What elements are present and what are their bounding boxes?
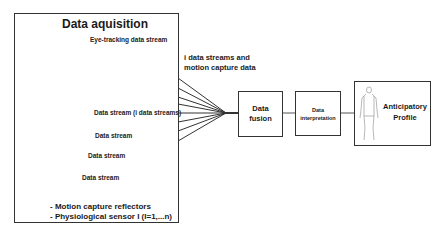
label-eye-tracking: Eye-tracking data stream	[90, 36, 167, 43]
interpretation-line1: Data	[312, 106, 324, 114]
stream-fan-lines	[178, 78, 226, 141]
profile-label: Anticipatory Profile	[380, 101, 430, 123]
streams-label: i data streams and motion capture data	[184, 53, 256, 73]
acquisition-title: Data aquisition	[62, 17, 148, 31]
label-thigh-stream: Data stream	[95, 132, 132, 139]
fusion-line2: fusion	[249, 114, 272, 124]
data-fusion-box: Data fusion	[238, 91, 283, 137]
legend-physiological-sensor: - Physiological sensor I (I=1,...n)	[50, 212, 172, 221]
label-arm-stream: Data stream (i data streams)	[94, 109, 181, 116]
streams-label-line2: motion capture data	[184, 63, 256, 73]
legend-motion-capture: - Motion capture reflectors	[50, 202, 151, 211]
fusion-line1: Data	[252, 104, 268, 114]
profile-line2: Profile	[380, 112, 430, 123]
profile-line1: Anticipatory	[380, 101, 430, 112]
streams-label-line1: i data streams and	[184, 53, 256, 63]
interpretation-line2: interpretation	[300, 114, 335, 122]
label-shin-stream: Data stream	[88, 152, 125, 159]
data-interpretation-box: Data interpretation	[295, 91, 341, 136]
label-foot-stream: Data stream	[82, 174, 119, 181]
data-acquisition-box	[14, 13, 179, 223]
